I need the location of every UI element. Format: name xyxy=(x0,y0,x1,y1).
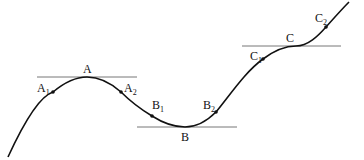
label-a1: A1 xyxy=(37,81,50,97)
label-a: A xyxy=(83,62,92,76)
point-a1-dot xyxy=(51,90,55,94)
point-a2-dot xyxy=(119,90,123,94)
label-a2: A2 xyxy=(124,81,137,97)
label-c1: C1 xyxy=(250,49,262,65)
label-b2: B2 xyxy=(203,98,215,114)
label-c2: C2 xyxy=(315,11,327,27)
point-b1-dot xyxy=(150,114,154,118)
curve-diagram: A A1 A2 B1 B B2 C1 C C2 xyxy=(0,0,364,160)
label-c: C xyxy=(286,31,294,45)
label-b1: B1 xyxy=(152,98,164,114)
curve xyxy=(8,2,349,157)
label-b: B xyxy=(181,130,189,144)
